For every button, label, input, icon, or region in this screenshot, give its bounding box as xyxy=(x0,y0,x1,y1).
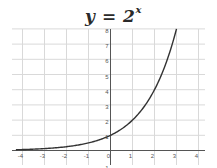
x-tick-label: -2 xyxy=(62,153,68,159)
plot-area: -4-3-2-101234-112345678 xyxy=(0,0,217,168)
x-tick-label: -4 xyxy=(18,153,24,159)
y-tick-label: -1 xyxy=(103,165,109,168)
x-tick-label: -3 xyxy=(40,153,46,159)
x-tick-label: -1 xyxy=(84,153,90,159)
